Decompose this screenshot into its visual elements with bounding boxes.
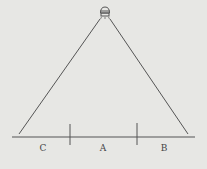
diagram-canvas: C A B xyxy=(0,0,207,169)
lamp-icon xyxy=(100,7,110,19)
left-ray xyxy=(19,19,100,134)
region-label-a: A xyxy=(100,144,107,153)
region-label-c: C xyxy=(40,144,47,153)
region-label-b: B xyxy=(161,144,168,153)
right-ray xyxy=(110,19,188,134)
